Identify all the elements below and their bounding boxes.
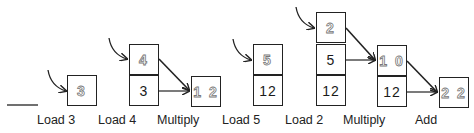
- push-arrow-icon: [109, 38, 127, 59]
- step-label: Load 2: [285, 113, 323, 127]
- stack-machine-diagram: 3 Load 3 4 3 Load 4 1 2 Multiply 5 12 Lo…: [0, 0, 474, 133]
- cell-value: 3: [77, 83, 87, 99]
- operand-arrow-icon: [346, 28, 375, 60]
- stack-cell-top: 3: [67, 75, 97, 106]
- stack-cell-top: 1 0: [377, 45, 407, 76]
- cell-value: 12: [259, 83, 277, 99]
- operand-arrow-icon: [407, 61, 437, 92]
- cell-value: 5: [263, 52, 273, 68]
- cell-value: 5: [327, 52, 336, 68]
- step-label: Add: [415, 113, 437, 127]
- cell-value: 12: [322, 83, 340, 99]
- stack-cell: 12: [253, 75, 283, 106]
- stack-cell: 3: [129, 75, 159, 106]
- stack-cell-top: 5: [253, 44, 283, 75]
- stack-cell: 12: [377, 76, 407, 107]
- cell-value: 3: [140, 83, 149, 99]
- stack-cell-top: 2 2: [439, 77, 469, 108]
- stack-cell: 5: [316, 44, 346, 75]
- push-arrow-icon: [296, 7, 314, 28]
- cell-value: 1 0: [379, 53, 404, 69]
- stack-cell-top: 1 2: [191, 76, 221, 107]
- cell-value: 12: [383, 84, 401, 100]
- cell-value: 4: [139, 52, 149, 68]
- step-label: Multiply: [343, 113, 385, 127]
- step-label: Load 4: [98, 113, 136, 127]
- step-label: Load 5: [222, 113, 260, 127]
- cell-value: 2: [326, 20, 336, 36]
- stack-cell-top: 2: [316, 12, 346, 43]
- push-arrow-icon: [233, 39, 251, 60]
- push-arrow-icon: [48, 70, 66, 91]
- cell-value: 2 2: [441, 85, 466, 101]
- stack-cell: 12: [316, 75, 346, 106]
- stack-cell-top: 4: [129, 44, 159, 75]
- step-label: Multiply: [157, 113, 199, 127]
- step-label: Load 3: [37, 113, 75, 127]
- cell-value: 1 2: [193, 84, 218, 100]
- operand-arrow-icon: [159, 59, 189, 90]
